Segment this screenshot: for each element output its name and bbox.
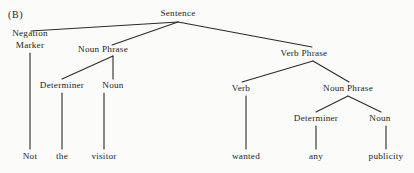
- node-sentence: Sentence: [160, 8, 195, 18]
- leaf-publicity: publicity: [369, 151, 404, 161]
- node-noun-left: Noun: [102, 80, 124, 90]
- node-noun-phrase-right: Noun Phrase: [323, 83, 373, 93]
- leaf-any: any: [309, 151, 323, 161]
- leaf-visitor: visitor: [91, 151, 116, 161]
- leaf-wanted: wanted: [232, 151, 260, 161]
- edge-sentence-to-verb-phrase: [178, 22, 312, 47]
- syntax-tree-figure: (B) Sentence Negation Marker Noun Phrase…: [0, 0, 414, 173]
- syntax-tree-canvas: (B) Sentence Negation Marker Noun Phrase…: [0, 0, 414, 173]
- leaf-not: Not: [23, 151, 38, 161]
- node-determiner-left: Determiner: [40, 80, 84, 90]
- node-negation-marker-line2: Marker: [16, 40, 45, 50]
- node-verb: Verb: [232, 83, 251, 93]
- edge-noun-phrase-left-to-determiner: [62, 56, 113, 79]
- node-negation-marker-line1: Negation: [12, 28, 48, 38]
- node-noun-right: Noun: [369, 113, 391, 123]
- edge-noun-phrase-right-to-noun: [348, 96, 381, 112]
- panel-label: (B): [8, 9, 23, 21]
- node-noun-phrase-left: Noun Phrase: [78, 44, 128, 54]
- node-verb-phrase: Verb Phrase: [281, 48, 328, 58]
- edge-noun-phrase-right-to-determiner: [316, 96, 348, 112]
- edge-verb-phrase-to-verb: [242, 61, 313, 82]
- leaf-the: the: [56, 151, 68, 161]
- node-determiner-right: Determiner: [294, 113, 338, 123]
- edge-verb-phrase-to-noun-phrase-right: [313, 61, 349, 82]
